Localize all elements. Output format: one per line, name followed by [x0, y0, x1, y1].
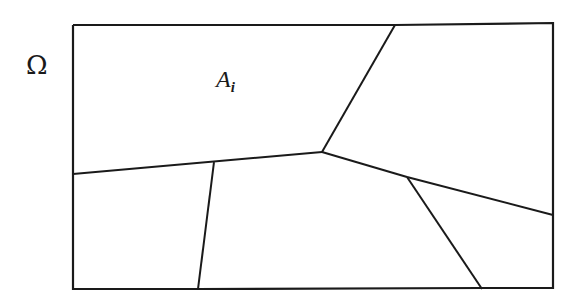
domain-omega-label: Ω [26, 50, 48, 80]
partition-edge-3 [322, 152, 407, 177]
domain-boundary [73, 23, 553, 289]
region-label-subscript: i [231, 79, 235, 95]
region-a-i-label: Ai [216, 66, 235, 96]
region-label-base: A [216, 66, 231, 92]
partition-diagram [0, 0, 586, 305]
partition-edge-2 [198, 162, 214, 289]
partition-edge-0 [73, 152, 322, 174]
partition-edge-1 [322, 25, 395, 152]
partition-edges [73, 25, 553, 289]
